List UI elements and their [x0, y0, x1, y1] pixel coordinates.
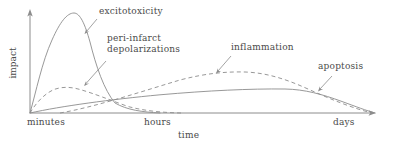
x-tick-hours: hours — [144, 117, 171, 127]
y-axis — [27, 9, 32, 113]
stroke-injury-timeline-chart: impact time minutes hours days excitotox… — [0, 0, 393, 147]
x-tick-days: days — [333, 117, 355, 127]
x-axis-label: time — [178, 130, 199, 140]
x-axis — [30, 110, 376, 115]
series-peri-infarct-depolarizations — [30, 87, 181, 113]
series-apoptosis — [30, 89, 375, 113]
series-excitotoxicity — [30, 13, 160, 113]
leader-apoptosis — [320, 76, 332, 89]
annotation-apoptosis: apoptosis — [318, 61, 363, 71]
annotation-excitotoxicity: excitotoxicity — [99, 6, 163, 16]
annotation-peri-infarct-line1: peri-infarct — [107, 33, 161, 43]
annotation-leaders — [84, 19, 332, 92]
series-inflammation — [60, 72, 372, 113]
y-axis-label: impact — [8, 41, 18, 85]
annotation-peri-infarct-line2: depolarizations — [107, 44, 180, 54]
leader-excitotoxicity — [87, 19, 98, 32]
annotation-inflammation: inflammation — [231, 42, 294, 52]
leader-inflammation — [218, 56, 231, 71]
x-tick-minutes: minutes — [27, 117, 65, 127]
annotation-peri-infarct-depolarizations: peri-infarct depolarizations — [107, 33, 187, 55]
